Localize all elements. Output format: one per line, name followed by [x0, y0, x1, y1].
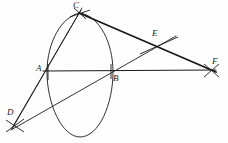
point-label-B: B [113, 74, 119, 83]
point-label-F: F [212, 57, 218, 66]
line-C-B-D [12, 10, 81, 128]
point-label-D: D [7, 108, 14, 117]
marker-E [140, 37, 178, 54]
point-label-E: E [152, 29, 158, 38]
geometry-figure: C A B E F D [0, 0, 228, 143]
point-label-C: C [73, 1, 79, 10]
marker-D [6, 119, 24, 132]
geometry-canvas [0, 0, 228, 143]
point-label-A: A [36, 64, 42, 73]
line-D-B-E [11, 36, 176, 130]
oval-arc-path [47, 13, 113, 137]
line-C-E-F [79, 13, 216, 72]
line-A-B-F [43, 70, 216, 71]
